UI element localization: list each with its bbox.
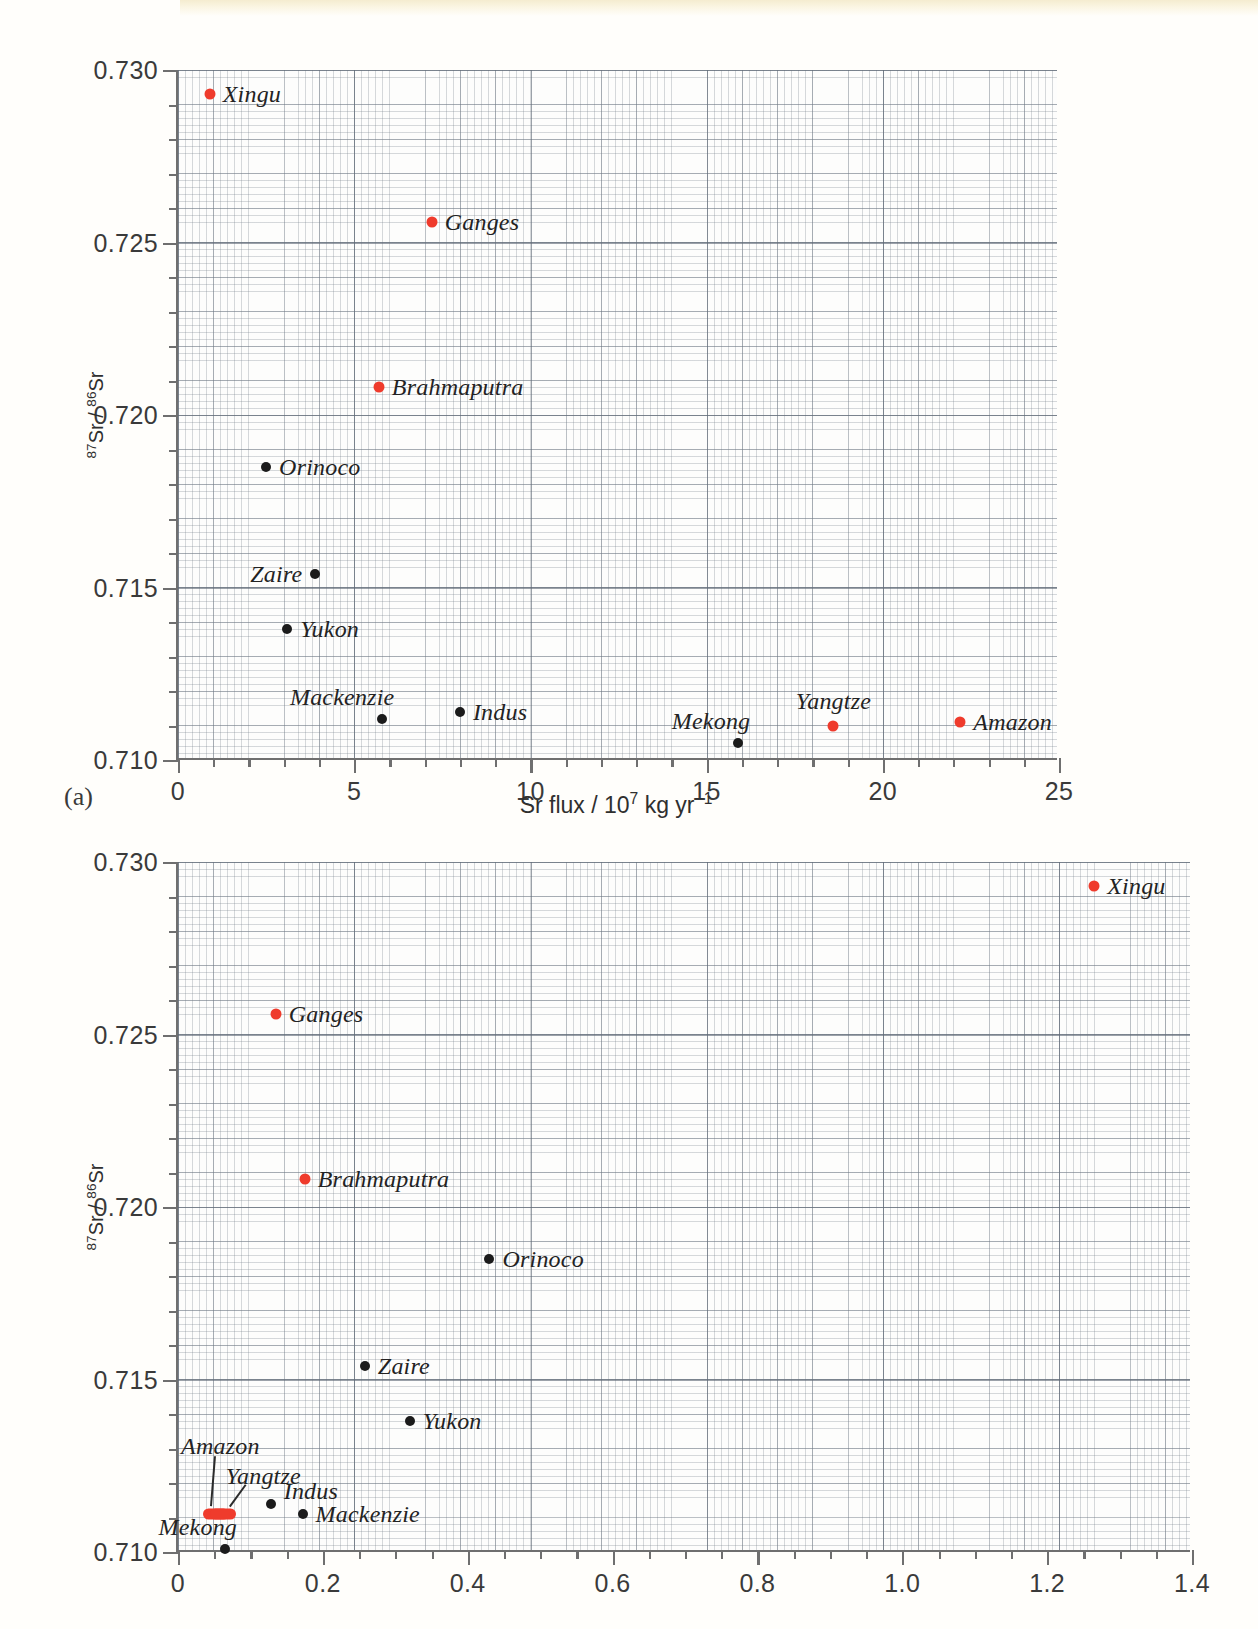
y-axis-tick-label: 0.710 xyxy=(93,1538,158,1567)
data-point-mekong[interactable] xyxy=(733,738,743,748)
y-axis-minor-tick xyxy=(169,1414,178,1416)
data-label-amazon: Amazon xyxy=(973,709,1052,736)
x-axis-minor-tick xyxy=(495,758,497,767)
panel-b-y-axis-title: 87Sr / 86Sr xyxy=(84,1164,109,1251)
x-axis-tick-label: 1.2 xyxy=(1029,1569,1065,1598)
x-axis-minor-tick xyxy=(649,1550,651,1559)
x-axis-minor-tick xyxy=(975,1550,977,1559)
data-point-yukon[interactable] xyxy=(405,1416,415,1426)
y-axis-tick-label: 0.725 xyxy=(93,1020,158,1049)
x-axis-minor-tick xyxy=(601,758,603,767)
data-point-orinoco[interactable] xyxy=(261,462,271,472)
grid-major xyxy=(178,70,1057,758)
y-axis-minor-tick xyxy=(169,553,178,555)
data-point-zaire[interactable] xyxy=(310,569,320,579)
x-axis-major-tick xyxy=(530,758,532,773)
y-axis-major-tick xyxy=(163,862,178,864)
x-axis-minor-tick xyxy=(460,758,462,767)
data-point-brahmaputra[interactable] xyxy=(299,1174,310,1185)
y-axis-minor-tick xyxy=(169,484,178,486)
data-point-zaire[interactable] xyxy=(360,1361,370,1371)
data-label-brahmaputra: Brahmaputra xyxy=(318,1166,450,1193)
panel-b-plot-area: 0.7100.7150.7200.7250.73000.20.40.60.81.… xyxy=(176,862,1190,1552)
x-axis-minor-tick xyxy=(425,758,427,767)
scan-artifact-band xyxy=(180,0,1258,16)
x-axis-minor-tick xyxy=(939,1550,941,1559)
data-point-xingu[interactable] xyxy=(1089,881,1100,892)
y-axis-minor-tick xyxy=(169,381,178,383)
x-axis-minor-tick xyxy=(671,758,673,767)
data-label-mekong: Mekong xyxy=(672,707,751,734)
x-axis-minor-tick xyxy=(794,1550,796,1559)
y-axis-minor-tick xyxy=(169,277,178,279)
data-label-xingu: Xingu xyxy=(1107,873,1165,900)
data-point-mackenzie[interactable] xyxy=(377,714,387,724)
data-point-mekong[interactable] xyxy=(220,1544,230,1554)
panel-a-tag: (a) xyxy=(64,782,93,812)
x-axis-major-tick xyxy=(1192,1550,1194,1565)
y-axis-minor-tick xyxy=(169,1276,178,1278)
y-axis-major-tick xyxy=(163,760,178,762)
data-label-zaire: Zaire xyxy=(250,560,302,587)
data-point-orinoco[interactable] xyxy=(484,1254,494,1264)
data-label-yangtze: Yangtze xyxy=(226,1463,301,1490)
x-axis-minor-tick xyxy=(389,758,391,767)
x-axis-minor-tick xyxy=(432,1550,434,1559)
data-point-xingu[interactable] xyxy=(204,89,215,100)
y-axis-major-tick xyxy=(163,588,178,590)
y-axis-minor-tick xyxy=(169,1242,178,1244)
grid-major xyxy=(178,862,1190,1550)
y-axis-minor-tick xyxy=(169,450,178,452)
data-label-mackenzie: Mackenzie xyxy=(316,1501,420,1528)
x-axis-minor-tick xyxy=(866,1550,868,1559)
panel-a-y-axis-title: 87Sr / 86Sr xyxy=(84,372,109,459)
y-axis-tick-label: 0.730 xyxy=(93,848,158,877)
y-axis-minor-tick xyxy=(169,657,178,659)
x-axis-minor-tick xyxy=(1156,1550,1158,1559)
x-axis-major-tick xyxy=(883,758,885,773)
data-label-mekong: Mekong xyxy=(159,1513,238,1540)
x-axis-major-tick xyxy=(757,1550,759,1565)
x-axis-major-tick xyxy=(178,758,180,773)
x-axis-minor-tick xyxy=(830,1550,832,1559)
x-axis-tick-label: 1.0 xyxy=(884,1569,920,1598)
data-point-yukon[interactable] xyxy=(282,624,292,634)
y-axis-minor-tick xyxy=(169,726,178,728)
x-axis-minor-tick xyxy=(1011,1550,1013,1559)
data-label-zaire: Zaire xyxy=(378,1352,430,1379)
x-axis-tick-label: 0.4 xyxy=(450,1569,486,1598)
x-axis-major-tick xyxy=(1059,758,1061,773)
x-axis-minor-tick xyxy=(918,758,920,767)
data-label-ganges: Ganges xyxy=(445,208,520,235)
y-axis-minor-tick xyxy=(169,931,178,933)
data-label-orinoco: Orinoco xyxy=(279,453,360,480)
data-point-amazon[interactable] xyxy=(955,717,966,728)
y-axis-minor-tick xyxy=(169,1345,178,1347)
x-axis-minor-tick xyxy=(504,1550,506,1559)
data-point-ganges[interactable] xyxy=(426,216,437,227)
data-point-mackenzie[interactable] xyxy=(298,1509,308,1519)
x-axis-tick-label: 1.4 xyxy=(1174,1569,1210,1598)
x-axis-minor-tick xyxy=(566,758,568,767)
data-point-brahmaputra[interactable] xyxy=(373,382,384,393)
x-axis-major-tick xyxy=(178,1550,180,1565)
data-point-indus[interactable] xyxy=(455,707,465,717)
y-axis-minor-tick xyxy=(169,1311,178,1313)
y-axis-minor-tick xyxy=(169,1449,178,1451)
x-axis-tick-label: 0 xyxy=(171,777,185,806)
data-label-xingu: Xingu xyxy=(223,81,281,108)
y-axis-tick-label: 0.710 xyxy=(93,746,158,775)
panel-a-plot-area: 0.7100.7150.7200.7250.7300510152025Xingu… xyxy=(176,70,1057,760)
x-axis-major-tick xyxy=(468,1550,470,1565)
x-axis-tick-label: 0.8 xyxy=(739,1569,775,1598)
y-axis-minor-tick xyxy=(169,691,178,693)
grid-fine xyxy=(178,70,1057,758)
data-point-yangtze[interactable] xyxy=(828,720,839,731)
data-point-ganges[interactable] xyxy=(270,1008,281,1019)
data-point-indus[interactable] xyxy=(266,1499,276,1509)
y-axis-minor-tick xyxy=(169,346,178,348)
x-axis-minor-tick xyxy=(319,758,321,767)
y-axis-major-tick xyxy=(163,1035,178,1037)
x-axis-major-tick xyxy=(354,758,356,773)
x-axis-minor-tick xyxy=(284,758,286,767)
